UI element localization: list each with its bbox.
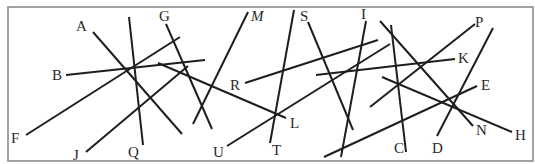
label-n: N (476, 122, 487, 138)
label-b: B (52, 67, 62, 83)
labels-group: ABFJQGMLRTUSICNKPDEH (11, 6, 526, 163)
label-d: D (432, 140, 443, 156)
label-i: I (361, 6, 366, 22)
segment-s (308, 22, 353, 130)
segment-m (193, 12, 248, 124)
segment-q (129, 17, 143, 145)
segment-f (26, 37, 180, 135)
label-h: H (515, 127, 526, 143)
label-c: C (394, 140, 404, 156)
label-q: Q (128, 144, 139, 160)
label-s: S (300, 8, 308, 24)
line-segments-diagram: ABFJQGMLRTUSICNKPDEH (0, 0, 535, 164)
label-a: A (76, 18, 87, 34)
label-f: F (11, 130, 19, 146)
segment-i (341, 21, 366, 157)
label-k: K (458, 50, 469, 66)
label-p: P (475, 14, 483, 30)
label-j: J (73, 147, 79, 163)
label-u: U (213, 144, 224, 160)
segment-l (158, 63, 286, 118)
label-t: T (272, 142, 281, 158)
segments-group (26, 10, 512, 157)
label-g: G (159, 8, 170, 24)
label-l: L (290, 115, 299, 131)
segment-h (382, 77, 512, 132)
segment-j (86, 66, 188, 152)
segment-u (227, 44, 390, 146)
label-r: R (230, 77, 240, 93)
label-m: M (250, 8, 265, 24)
label-e: E (481, 77, 490, 93)
segment-k (316, 59, 455, 75)
